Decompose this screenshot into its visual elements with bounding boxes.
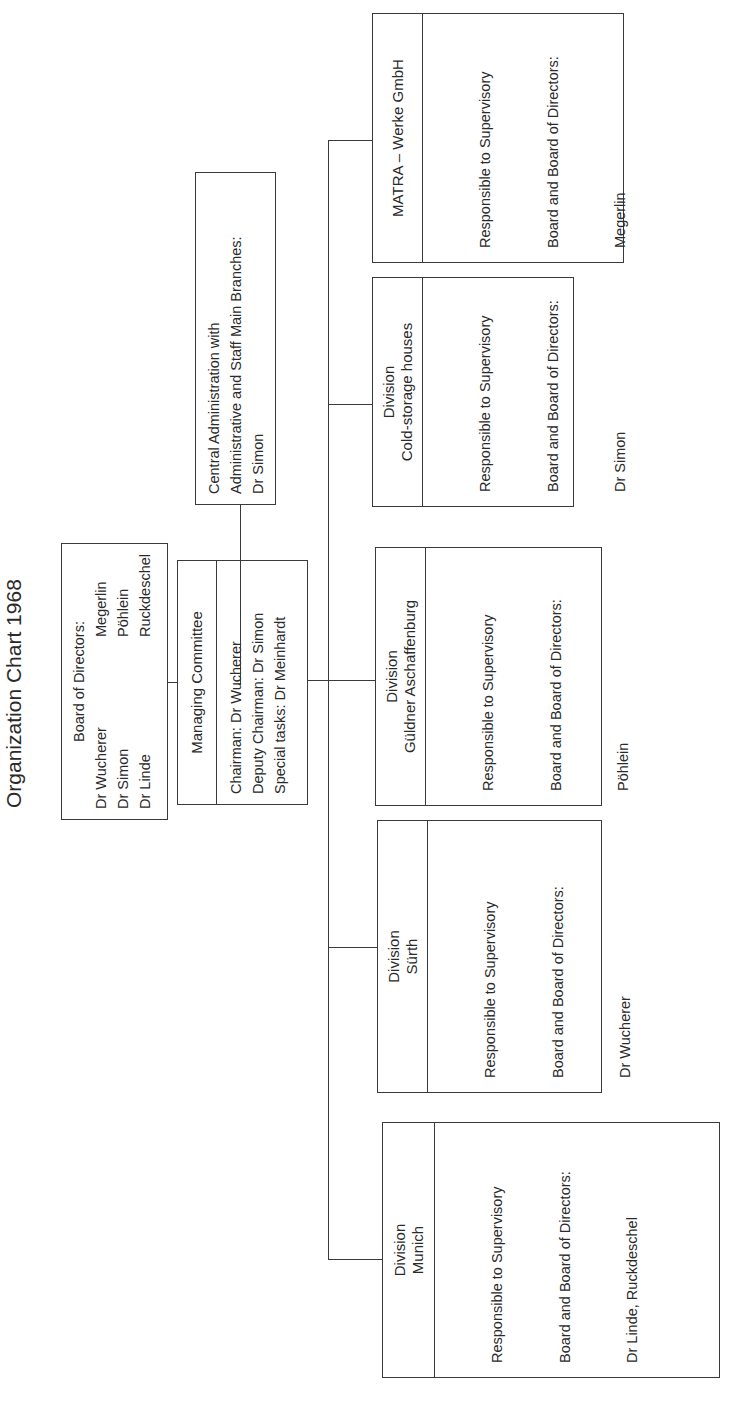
board-member: Megerlin xyxy=(90,554,112,637)
unit-line: Pöhlein xyxy=(612,556,635,791)
unit-title: Division xyxy=(380,366,398,419)
branch-cold-storage xyxy=(328,404,372,405)
unit-box-cold-storage: Division Cold-storage houses Responsible… xyxy=(372,277,574,507)
org-chart: Organization Chart 1968 Board of Directo… xyxy=(0,0,736,1403)
unit-subtitle: Güldner Aschaffenburg xyxy=(401,600,419,753)
unit-line: Dr Linde, Ruckdeschel xyxy=(621,1131,644,1363)
org-spine xyxy=(328,141,329,1260)
board-member: Pöhlein xyxy=(112,554,134,637)
unit-subtitle: Munich xyxy=(409,1226,427,1274)
unit-body: Responsible to Supervisory Board and Boa… xyxy=(435,1123,736,1377)
unit-heading: MATRA – Werke GmbH xyxy=(373,14,423,262)
unit-line: Board and Board of Directors: xyxy=(554,1131,577,1363)
managing-committee-heading: Managing Committee xyxy=(178,561,217,804)
unit-line: Board and Board of Directors: xyxy=(545,556,568,791)
board-member: Dr Simon xyxy=(112,727,134,809)
unit-body: Responsible to Supervisory Board and Boa… xyxy=(423,14,736,262)
unit-line: Responsible to Supervisory xyxy=(477,556,500,791)
unit-title: Division xyxy=(385,930,403,983)
unit-line: Megerlin xyxy=(609,22,632,248)
connector-committee-central xyxy=(240,504,241,685)
managing-committee-box: Managing Committee Chairman: Dr Wucherer… xyxy=(177,560,308,805)
branch-munich xyxy=(328,1259,338,1260)
branch-matra xyxy=(328,140,372,141)
unit-subtitle: Sürth xyxy=(403,939,421,975)
unit-line: Responsible to Supervisory xyxy=(474,286,497,492)
unit-body: Responsible to Supervisory Board and Boa… xyxy=(426,548,736,805)
unit-line: Board and Board of Directors: xyxy=(547,829,570,1078)
unit-box-matra: MATRA – Werke GmbH Responsible to Superv… xyxy=(372,13,624,263)
board-heading: Board of Directors: xyxy=(68,554,90,809)
unit-box-suerth: Division Sürth Responsible to Supervisor… xyxy=(377,820,602,1093)
branch-suerth xyxy=(328,947,377,948)
unit-title: MATRA – Werke GmbH xyxy=(389,59,407,217)
board-member: Dr Wucherer xyxy=(90,727,112,809)
connector-committee-spine xyxy=(307,680,375,681)
board-of-directors-box: Board of Directors: Dr Wucherer Dr Simon… xyxy=(61,543,168,820)
board-member: Ruckdeschel xyxy=(134,554,156,637)
unit-title: Division xyxy=(383,650,401,703)
unit-subtitle: Cold-storage houses xyxy=(398,323,416,461)
unit-line: Dr Wucherer xyxy=(614,829,637,1078)
committee-line: Chairman: Dr Wucherer xyxy=(225,571,247,794)
committee-line: Deputy Chairman: Dr Simon xyxy=(247,571,269,794)
central-administration-box: Central Administration with Administrati… xyxy=(195,172,276,505)
unit-box-gueldner: Division Güldner Aschaffenburg Responsib… xyxy=(375,547,602,806)
unit-line: Dr Simon xyxy=(609,286,632,492)
chart-title: Organization Chart 1968 xyxy=(2,579,26,808)
board-member: Dr Linde xyxy=(134,727,156,809)
unit-heading: Division Munich xyxy=(383,1123,435,1377)
unit-heading: Division Cold-storage houses xyxy=(373,278,423,506)
unit-line: Responsible to Supervisory xyxy=(486,1131,509,1363)
unit-body: Responsible to Supervisory Board and Boa… xyxy=(423,278,736,506)
unit-heading: Division Sürth xyxy=(378,821,428,1092)
unit-title: Division xyxy=(391,1224,409,1277)
connector-board-committee xyxy=(167,682,178,683)
central-admin-line: Dr Simon xyxy=(247,183,269,494)
committee-line: Special tasks: Dr Meinhardt xyxy=(269,571,291,794)
unit-line: Board and Board of Directors: xyxy=(542,22,565,248)
unit-line: Responsible to Supervisory xyxy=(479,829,502,1078)
branch-munich xyxy=(338,1259,382,1260)
central-admin-line: Central Administration with xyxy=(203,183,225,494)
unit-heading: Division Güldner Aschaffenburg xyxy=(376,548,426,805)
unit-line: Board and Board of Directors: xyxy=(542,286,565,492)
unit-body: Responsible to Supervisory Board and Boa… xyxy=(428,821,736,1092)
unit-box-munich: Division Munich Responsible to Superviso… xyxy=(382,1122,720,1378)
unit-line: Responsible to Supervisory xyxy=(474,22,497,248)
central-admin-line: Administrative and Staff Main Branches: xyxy=(225,183,247,494)
